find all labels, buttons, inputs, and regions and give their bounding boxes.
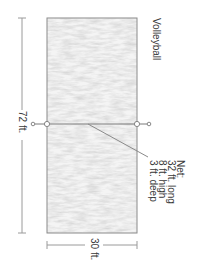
net-post-right-icon (134, 121, 139, 126)
net-specs: Net: 32 ft. long 8 ft. high 3 ft. deep (149, 160, 185, 204)
net-length: 32 ft. long (167, 160, 176, 204)
court (47, 18, 137, 233)
length-label: 72 ft. (17, 111, 27, 133)
width-label: 30 ft. (89, 238, 99, 260)
net-depth: 3 ft. deep (149, 160, 158, 204)
net-post-left-icon (44, 121, 49, 126)
net-post-right-outer-icon (147, 122, 151, 126)
net-heading: Net: (176, 160, 185, 204)
net-post-left-outer-icon (31, 122, 35, 126)
volleyball-court-diagram (0, 0, 197, 277)
diagram-title: Volleyball (151, 18, 161, 60)
net-height: 8 ft. high (158, 160, 167, 204)
